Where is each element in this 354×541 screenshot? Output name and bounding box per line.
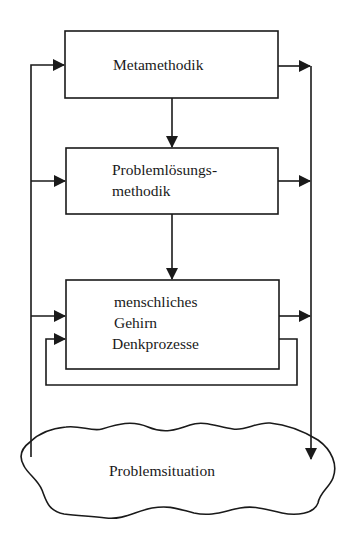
label-problemsituation: Problemsituation bbox=[109, 460, 215, 481]
label-gehirn-line3: Denkprozesse bbox=[112, 333, 199, 354]
label-gehirn-line1: menschliches bbox=[114, 291, 198, 312]
label-metamethodik: Metamethodik bbox=[113, 54, 203, 75]
left-input-bus bbox=[31, 65, 64, 457]
label-problemloesungsmethodik-line1: Problemlösungs- bbox=[112, 159, 217, 180]
label-gehirn-line2: Gehirn bbox=[114, 312, 157, 333]
box-problemloesungsmethodik bbox=[66, 148, 278, 214]
label-problemloesungsmethodik-line2: methodik bbox=[112, 180, 171, 201]
